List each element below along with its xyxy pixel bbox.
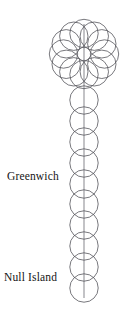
circle-chain-diagram: Greenwich Null Island (0, 0, 130, 311)
label-null-island: Null Island (4, 271, 57, 283)
rosette-circle-4 (88, 50, 116, 78)
label-greenwich: Greenwich (7, 170, 59, 182)
rosette-circle-3 (90, 40, 118, 68)
figure-root: Greenwich Null Island (0, 0, 130, 311)
rosette-circle-9 (49, 40, 77, 68)
rosette-circle-10 (52, 30, 80, 58)
